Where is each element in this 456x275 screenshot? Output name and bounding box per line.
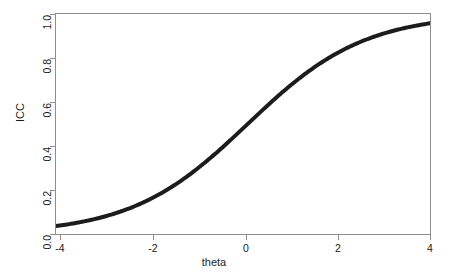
y-tick-label-4: 0.8 xyxy=(41,59,53,74)
x-axis-title: theta xyxy=(0,256,456,268)
x-tick-label-1: -2 xyxy=(148,242,157,254)
icc-plot-figure: ICC 0.0 0.2 0.4 0.6 0.8 1.0 -4 -2 0 2 4 … xyxy=(0,0,456,275)
y-tick-label-2: 0.4 xyxy=(41,147,53,162)
x-tick-mark-4 xyxy=(430,235,431,240)
x-tick-label-0: -4 xyxy=(55,242,64,254)
y-tick-label-0: 0.0 xyxy=(41,235,53,250)
x-tick-label-3: 2 xyxy=(335,242,341,254)
x-axis-title-text: theta xyxy=(202,256,226,268)
x-tick-mark-1 xyxy=(153,235,154,240)
plot-area xyxy=(55,13,431,235)
y-tick-label-1: 0.2 xyxy=(41,191,53,206)
icc-curve xyxy=(56,14,430,234)
x-tick-mark-0 xyxy=(60,235,61,240)
x-tick-label-4: 4 xyxy=(427,242,433,254)
x-tick-mark-3 xyxy=(338,235,339,240)
x-tick-mark-2 xyxy=(246,235,247,240)
icc-curve-line xyxy=(56,23,430,226)
x-tick-label-2: 0 xyxy=(243,242,249,254)
y-axis-title: ICC xyxy=(14,106,26,122)
y-tick-label-3: 0.6 xyxy=(41,103,53,118)
y-tick-label-5: 1.0 xyxy=(41,15,53,30)
